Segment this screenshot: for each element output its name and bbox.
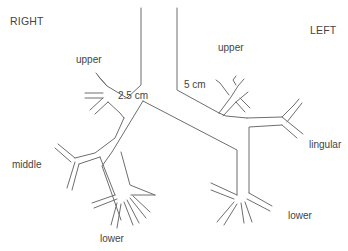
left-lower-med-b — [247, 199, 270, 211]
label-right-main-bronchus-length: 2.5 cm — [118, 91, 148, 101]
label-left-upper-lobe: upper — [218, 43, 244, 53]
left-lingular-trunk — [247, 99, 299, 118]
left-lower-med-a — [249, 193, 272, 206]
left-lower-down-a — [217, 202, 234, 222]
trachea-right-wall — [127, 8, 141, 98]
trachea-left-wall — [177, 8, 219, 113]
left-lower-down-d — [245, 202, 252, 222]
left-lower-down-c — [241, 203, 244, 223]
left-lower-lat-a — [211, 183, 237, 195]
left-lower-inner-top — [249, 125, 282, 193]
left-upper-x-e — [236, 102, 245, 112]
left-lower-lat-b — [211, 190, 234, 199]
left-upper-x-f — [240, 98, 250, 108]
right-lower-post-a — [124, 202, 133, 225]
label-left-lower-lobe: lower — [288, 211, 312, 221]
right-middle-inner — [79, 157, 100, 164]
right-upper-top — [96, 73, 107, 86]
right-lower-trunk — [100, 157, 115, 195]
left-upper-x-d — [233, 76, 236, 85]
label-right-side: RIGHT — [10, 16, 44, 27]
right-lower-down-a — [111, 203, 117, 225]
right-lower-post-d — [133, 196, 150, 212]
left-lingular-b — [287, 103, 302, 122]
right-intermediate-outer — [75, 118, 124, 158]
left-lower-down-b — [224, 204, 237, 225]
right-middle-a — [58, 144, 75, 158]
label-right-middle-lobe: middle — [12, 160, 41, 170]
label-lingular: lingular — [309, 140, 341, 150]
label-right-upper-lobe: upper — [76, 55, 102, 65]
right-middle-b — [55, 148, 71, 162]
right-lower-down-b — [117, 204, 121, 228]
right-lower-lat-a — [92, 195, 115, 203]
left-lingular-c — [282, 117, 303, 134]
left-upper-x-c — [216, 80, 229, 95]
left-upper-x-b — [223, 92, 248, 116]
right-lower-post-b — [127, 200, 139, 223]
right-lower-inner — [121, 152, 155, 195]
left-upper-x-a — [219, 79, 244, 113]
label-left-main-bronchus-length: 5 cm — [184, 80, 206, 90]
right-lower-lat-b — [94, 199, 117, 208]
label-right-lower-lobe: lower — [100, 234, 124, 244]
label-left-side: LEFT — [310, 25, 336, 36]
right-upper-low-branch — [108, 102, 124, 118]
airway-lines — [55, 8, 303, 228]
